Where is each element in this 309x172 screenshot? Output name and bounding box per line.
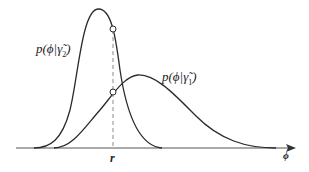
curve-gamma2 <box>34 9 162 148</box>
diagram-canvas <box>0 0 309 172</box>
label-curve-gamma1: p(ϕ|γ̃1) <box>162 69 197 87</box>
label-curve-gamma2: p(ϕ|γ̃2) <box>36 41 71 59</box>
label-prefix: p( <box>36 41 47 56</box>
x-axis-label: ϕ <box>283 150 289 161</box>
label-cond: |γ̃ <box>54 41 63 56</box>
marker-gamma2-intersection-icon <box>110 26 116 32</box>
label-prefix: p( <box>162 69 173 84</box>
label-suffix: ) <box>192 69 196 84</box>
label-var: ϕ <box>47 41 54 56</box>
marker-gamma1-intersection-icon <box>110 89 116 95</box>
threshold-label: r <box>110 151 115 166</box>
label-cond: |γ̃ <box>180 69 189 84</box>
label-suffix: ) <box>66 41 70 56</box>
label-var: ϕ <box>173 69 180 84</box>
